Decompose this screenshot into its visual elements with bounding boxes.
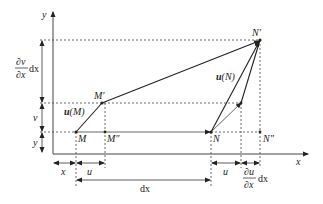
label-y: y [32,137,38,148]
label-x: x [60,166,66,177]
label-u2: u [223,166,228,177]
label-dudx-dx: dx [258,173,268,184]
label-dudx-den: ∂x [244,179,254,190]
label-dvdx-dx: dx [29,63,39,74]
label-Ndoubleprime: N″ [262,133,275,144]
vector-uM-translated [211,103,241,132]
label-dvdx-num: ∂v [16,56,26,67]
label-v: v [33,112,38,123]
point-Nprime [258,38,261,41]
point-Ndoubleprime [259,131,262,134]
vector-uN [211,42,259,132]
point-translated [240,102,243,105]
label-dudx-num: ∂u [244,166,254,177]
y-axis-label: y [41,9,47,20]
label-M: M [77,133,87,144]
label-dx: dx [140,183,150,194]
label-Nprime: N′ [251,27,262,38]
point-Mdoubleprime [104,131,107,134]
label-Mdoubleprime: M″ [106,133,120,144]
label-uN: u(N) [216,71,236,83]
point-Mprime [100,101,103,104]
x-axis-label: x [295,156,301,167]
label-u1: u [87,166,92,177]
label-uM: u(M) [64,106,85,118]
label-Mprime: M′ [93,90,105,101]
deformation-diagram: y x M M′ M″ N N′ N″ u(M) u(N) ∂v ∂x dx v… [0,0,323,204]
label-dvdx-den: ∂x [16,69,26,80]
label-N: N [212,133,221,144]
element-mprime-nprime [102,41,259,103]
